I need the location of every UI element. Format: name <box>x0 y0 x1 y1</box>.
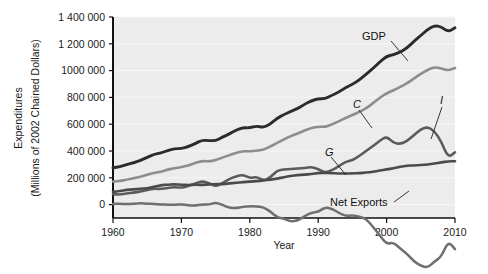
x-axis-title: Year <box>273 239 295 251</box>
y-tick-label: 400 000 <box>67 145 105 157</box>
expenditures-chart-figure: 0200 000400 000600 000800 0001000 0001 2… <box>0 0 488 274</box>
y-tick-label: 1 400 000 <box>58 11 105 23</box>
chart-canvas: 0200 000400 000600 000800 0001000 0001 2… <box>0 0 488 274</box>
y-tick-label: 1 200 000 <box>58 38 105 50</box>
x-tick-label: 2010 <box>443 226 467 238</box>
x-tick-label: 1990 <box>307 226 331 238</box>
series-label-g: G <box>325 146 334 158</box>
y-tick-label: 800 000 <box>67 91 105 103</box>
series-label-net-exports: Net Exports <box>330 196 388 208</box>
y-tick-label: 200 000 <box>67 172 105 184</box>
y-axis-title-line1: Expenditures <box>12 87 24 148</box>
y-tick-label: 600 000 <box>67 118 105 130</box>
x-tick-label: 1980 <box>238 226 262 238</box>
y-axis-title-line2: (Millions of 2002 Chained Dollars) <box>29 39 41 197</box>
x-tick-label: 1960 <box>101 226 125 238</box>
series-label-i: I <box>440 94 443 106</box>
y-tick-label: 1000 000 <box>61 64 105 76</box>
series-label-c: C <box>353 98 361 110</box>
series-label-gdp: GDP <box>362 30 386 42</box>
x-tick-label: 1970 <box>170 226 194 238</box>
y-tick-label: 0 <box>99 198 105 210</box>
